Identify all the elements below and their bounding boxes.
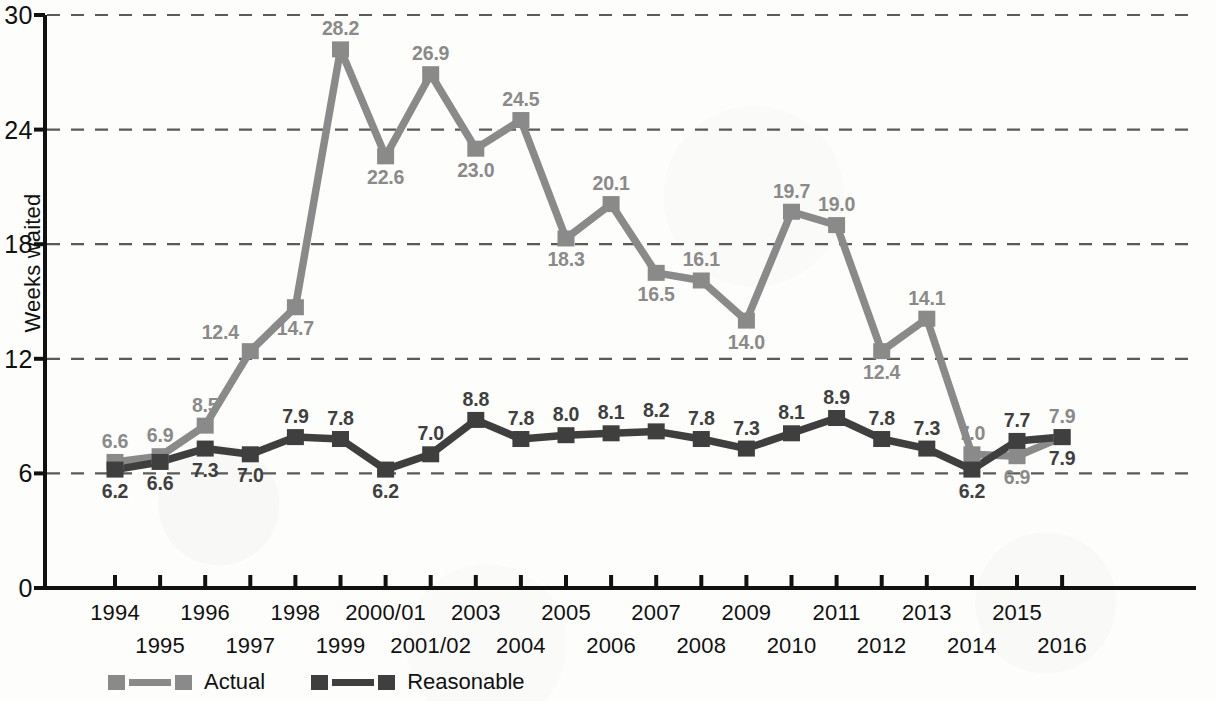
marker-reasonable[interactable]: [1054, 429, 1071, 445]
marker-actual[interactable]: [783, 204, 800, 220]
data-label-reasonable: 7.0: [237, 464, 264, 487]
data-label-actual: 6.9: [147, 424, 174, 447]
data-label-reasonable: 7.8: [327, 407, 354, 430]
data-label-actual: 26.9: [412, 42, 449, 65]
data-label-actual: 24.5: [502, 88, 539, 111]
data-label-actual: 12.4: [863, 361, 900, 384]
marker-actual[interactable]: [738, 313, 755, 329]
data-label-actual: 6.9: [1004, 466, 1031, 489]
marker-actual[interactable]: [918, 311, 935, 327]
marker-reasonable[interactable]: [467, 412, 484, 428]
data-label-reasonable: 7.0: [417, 422, 444, 445]
data-label-actual: 19.7: [773, 180, 810, 203]
marker-actual[interactable]: [422, 66, 439, 82]
marker-reasonable[interactable]: [738, 441, 755, 457]
marker-actual[interactable]: [828, 217, 845, 233]
data-label-reasonable: 7.3: [914, 417, 941, 440]
data-label-actual: 23.0: [457, 159, 494, 182]
data-label-reasonable: 6.6: [147, 472, 174, 495]
legend-line-actual: [129, 679, 171, 686]
marker-reasonable[interactable]: [332, 431, 349, 447]
data-label-reasonable: 8.2: [643, 399, 670, 422]
data-label-reasonable: 7.8: [868, 407, 895, 430]
data-label-actual: 16.5: [638, 283, 675, 306]
data-label-reasonable: 8.1: [598, 401, 625, 424]
data-label-reasonable: 8.8: [463, 388, 490, 411]
marker-actual[interactable]: [512, 112, 529, 128]
marker-reasonable[interactable]: [152, 454, 169, 470]
marker-actual[interactable]: [242, 343, 259, 359]
legend-item-reasonable[interactable]: Reasonable: [311, 669, 524, 695]
legend-item-actual[interactable]: Actual: [108, 669, 265, 695]
data-label-reasonable: 7.3: [192, 459, 219, 482]
data-label-actual: 20.1: [593, 172, 630, 195]
marker-reasonable[interactable]: [242, 446, 259, 462]
marker-reasonable[interactable]: [873, 431, 890, 447]
marker-reasonable[interactable]: [963, 462, 980, 478]
marker-actual[interactable]: [467, 141, 484, 157]
chart-legend: Actual Reasonable: [0, 669, 1216, 695]
marker-actual[interactable]: [377, 148, 394, 164]
marker-actual[interactable]: [963, 446, 980, 462]
data-label-actual: 12.4: [202, 321, 239, 344]
data-label-actual: 8.5: [192, 394, 219, 417]
plot-area: [0, 0, 1216, 701]
legend-label-actual: Actual: [204, 669, 265, 695]
marker-reasonable[interactable]: [783, 425, 800, 441]
data-label-reasonable: 8.1: [778, 401, 805, 424]
marker-reasonable[interactable]: [377, 462, 394, 478]
marker-reasonable[interactable]: [693, 431, 710, 447]
legend-swatch-actual: [108, 675, 125, 690]
marker-reasonable[interactable]: [603, 425, 620, 441]
marker-actual[interactable]: [332, 41, 349, 57]
data-label-reasonable: 7.8: [508, 407, 535, 430]
marker-reasonable[interactable]: [918, 441, 935, 457]
data-label-actual: 22.6: [367, 166, 404, 189]
legend-swatch-reasonable: [311, 675, 328, 690]
data-label-actual: 16.1: [683, 248, 720, 271]
marker-reasonable[interactable]: [558, 427, 575, 443]
marker-actual[interactable]: [873, 343, 890, 359]
data-label-reasonable: 6.2: [102, 480, 129, 503]
marker-actual[interactable]: [648, 265, 665, 281]
data-label-reasonable: 7.7: [1004, 409, 1031, 432]
data-label-reasonable: 7.9: [282, 405, 309, 428]
marker-actual[interactable]: [197, 418, 214, 434]
marker-actual[interactable]: [287, 299, 304, 315]
marker-actual[interactable]: [603, 196, 620, 212]
data-label-actual: 28.2: [322, 17, 359, 40]
data-label-reasonable: 6.2: [372, 480, 399, 503]
data-label-actual: 14.7: [277, 317, 314, 340]
data-label-reasonable: 6.2: [959, 480, 986, 503]
data-label-actual: 14.0: [728, 331, 765, 354]
data-label-actual: 19.0: [818, 193, 855, 216]
marker-actual[interactable]: [693, 272, 710, 288]
marker-reasonable[interactable]: [422, 446, 439, 462]
data-label-actual: 18.3: [547, 248, 584, 271]
marker-actual[interactable]: [1009, 448, 1026, 464]
marker-reasonable[interactable]: [512, 431, 529, 447]
data-label-reasonable: 8.0: [553, 403, 580, 426]
data-label-actual: 14.1: [908, 287, 945, 310]
data-label-reasonable: 7.3: [733, 417, 760, 440]
legend-line-reasonable: [332, 679, 374, 686]
marker-reasonable[interactable]: [1009, 433, 1026, 449]
legend-swatch-reasonable-end: [378, 675, 395, 690]
data-label-reasonable: 7.8: [688, 407, 715, 430]
marker-reasonable[interactable]: [287, 429, 304, 445]
marker-reasonable[interactable]: [828, 410, 845, 426]
legend-label-reasonable: Reasonable: [407, 669, 524, 695]
marker-reasonable[interactable]: [648, 423, 665, 439]
data-label-actual: 6.6: [102, 430, 129, 453]
marker-actual[interactable]: [558, 230, 575, 246]
marker-reasonable[interactable]: [107, 462, 124, 478]
data-label-actual: 7.9: [1049, 405, 1076, 428]
marker-reasonable[interactable]: [197, 441, 214, 457]
series-line-actual: [115, 49, 1062, 462]
chart-container: Weeks waited 0612182430 1994199519961997…: [0, 0, 1216, 701]
data-label-actual: 7.0: [959, 422, 986, 445]
legend-swatch-actual-end: [175, 675, 192, 690]
data-label-reasonable: 8.9: [823, 386, 850, 409]
data-label-reasonable: 7.9: [1049, 447, 1076, 470]
